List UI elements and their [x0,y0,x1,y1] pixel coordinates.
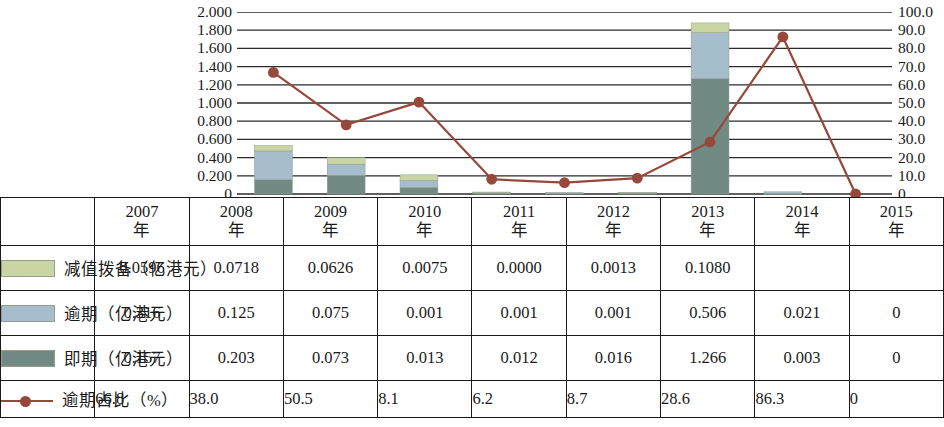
year-unit: 年 [378,222,471,240]
year-number: 2012 [567,203,660,221]
ratio-marker [486,174,497,185]
table-row: 即期（亿港元）0.1570.2030.0730.0130.0120.0161.2… [1,336,944,381]
bar-segment [691,23,729,33]
year-unit: 年 [284,222,377,240]
bar-segment [400,175,438,181]
bar-segment [254,151,292,180]
table-cell: 0 [849,291,943,336]
table-cell: 6.2 [472,381,566,418]
legend-row-label: 减值拨备（亿港元） [1,246,95,291]
left-axis-tick: 0.800 [197,113,232,129]
right-axis-tick-labels: 100.090.080.070.060.050.040.030.020.010.… [898,0,944,200]
legend-row-label: 逾期占比（%） [1,381,95,418]
year-unit: 年 [567,222,660,240]
right-axis-tick: 70.0 [898,59,925,75]
year-number: 2011 [472,203,565,221]
year-unit: 年 [850,222,943,240]
table-cell: 0.0626 [283,246,377,291]
table-cell: 8.1 [378,381,472,418]
bar-segment [400,181,438,188]
bar-segment [764,192,802,194]
year-header-2009: 2009年 [283,198,377,246]
ratio-marker [341,119,352,130]
legend-swatch-icon [1,305,55,322]
table-cell: 0.073 [283,336,377,381]
table-cell: 1.266 [661,336,755,381]
table-cell: 0.013 [378,336,472,381]
bar-segment [618,192,656,193]
table-cell: 0.001 [472,291,566,336]
chart-area: 2.0001.8001.6001.4001.2001.0000.8000.600… [0,0,944,200]
bar-segment [327,158,365,165]
bar-segment [691,79,729,194]
bar-segment [254,180,292,194]
bar-segment [327,176,365,194]
table-cell: 0.0075 [378,246,472,291]
year-unit: 年 [472,222,565,240]
ratio-marker [268,67,279,78]
year-number: 2013 [661,203,754,221]
left-axis-tick: 1.400 [197,59,232,75]
year-number: 2009 [284,203,377,221]
ratio-marker [632,173,643,184]
left-axis-tick: 0.600 [197,132,232,148]
table-cell: 0.506 [661,291,755,336]
legend-line-marker-icon [1,394,53,409]
ratio-marker [559,177,570,188]
right-axis-tick: 30.0 [898,132,925,148]
table-cell: 0.075 [283,291,377,336]
year-number: 2010 [378,203,471,221]
right-axis-tick: 60.0 [898,77,925,93]
left-axis-tick: 1.600 [197,41,232,57]
table-cell: 0.012 [472,336,566,381]
bar-segment [400,187,438,194]
right-axis-tick: 20.0 [898,150,925,166]
ratio-marker [777,32,788,43]
table-cell: 0.003 [755,336,849,381]
year-number: 2014 [755,203,848,221]
year-unit: 年 [661,222,754,240]
year-number: 2015 [850,203,943,221]
year-number: 2007 [95,203,188,221]
table-cell: 28.6 [661,381,755,418]
right-axis-tick: 50.0 [898,95,925,111]
bar-segment [473,192,511,193]
right-axis-tick: 90.0 [898,22,925,38]
left-axis-tick: 0.400 [197,150,232,166]
table-row: 逾期（亿港元）0.3160.1250.0750.0010.0010.0010.5… [1,291,944,336]
table-cell: 0 [849,381,943,418]
table-cell: 0.203 [189,336,283,381]
left-axis-tick: 1.200 [197,77,232,93]
bar-segment [691,33,729,79]
table-cell: 0.001 [566,291,660,336]
ratio-marker [414,97,425,108]
left-axis-tick: 2.000 [197,4,232,20]
right-axis-tick: 80.0 [898,41,925,57]
legend-swatch-icon [1,350,55,367]
table-row: 减值拨备（亿港元）0.05960.07180.06260.00750.00000… [1,246,944,291]
table-cell: 0.1080 [661,246,755,291]
legend-swatch-icon [1,260,55,277]
table-row: 逾期占比（%）66.838.050.58.16.28.728.686.30 [1,381,944,418]
bar-segment [546,193,584,194]
plot-canvas [237,12,892,194]
year-header-2014: 2014年 [755,198,849,246]
year-header-2010: 2010年 [378,198,472,246]
table-cell [849,246,943,291]
table-header-row: 2007年2008年2009年2010年2011年2012年2013年2014年… [1,198,944,246]
right-axis-tick: 100.0 [898,4,933,20]
table-cell: 0.125 [189,291,283,336]
chart-svg [237,12,892,198]
table-body: 减值拨备（亿港元）0.05960.07180.06260.00750.00000… [1,246,944,418]
year-number: 2008 [190,203,283,221]
left-axis-tick: 1.800 [197,22,232,38]
legend-row-label: 即期（亿港元） [1,336,95,381]
table-cell: 0.001 [378,291,472,336]
right-axis-tick: 40.0 [898,113,925,129]
year-header-2011: 2011年 [472,198,566,246]
table-cell: 0.021 [755,291,849,336]
year-header-2008: 2008年 [189,198,283,246]
left-axis-tick-labels: 2.0001.8001.6001.4001.2001.0000.8000.600… [150,0,232,200]
table-cell: 8.7 [566,381,660,418]
table-cell: 0 [849,336,943,381]
